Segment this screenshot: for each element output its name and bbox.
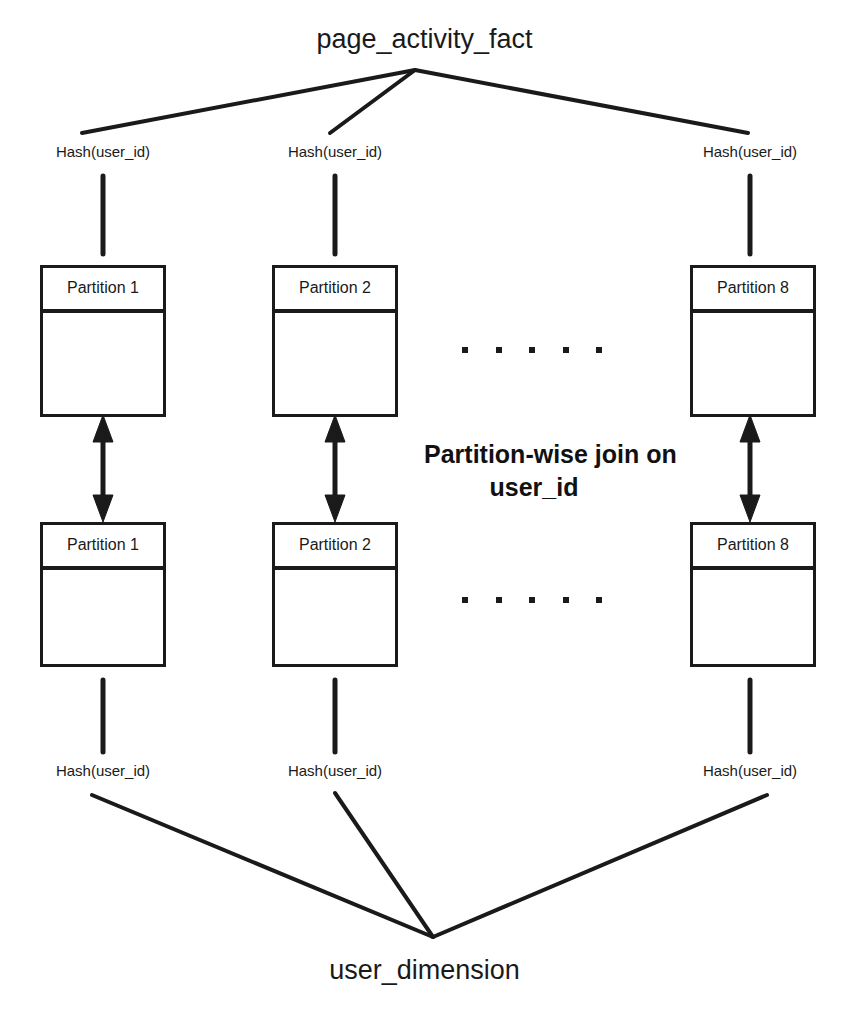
ellipsis-dot bbox=[596, 347, 602, 353]
fact-partition-box-2-body bbox=[275, 313, 395, 459]
ellipsis-dot bbox=[496, 347, 502, 353]
page-title-fact-table: page_activity_fact bbox=[0, 24, 849, 55]
join-annotation: Partition-wise join on user_id bbox=[424, 438, 644, 504]
hash-label-bottom-1: Hash(user_id) bbox=[33, 762, 173, 779]
edge-hash-3-to-dim bbox=[433, 795, 767, 937]
fact-partition-box-1[interactable]: Partition 1 bbox=[40, 265, 166, 417]
dim-partition-box-1-body bbox=[43, 570, 163, 709]
ellipsis-dot bbox=[563, 597, 569, 603]
ellipsis-dot bbox=[462, 347, 468, 353]
fact-partition-box-8[interactable]: Partition 8 bbox=[690, 265, 816, 417]
hash-label-top-3: Hash(user_id) bbox=[680, 143, 820, 160]
ellipsis-fact-partitions bbox=[462, 346, 602, 354]
edge-hash-1-to-dim bbox=[92, 795, 433, 937]
fact-partition-box-8-body bbox=[693, 313, 813, 459]
diagram-canvas: page_activity_fact Hash(user_id) Hash(us… bbox=[0, 0, 849, 1027]
ellipsis-dot bbox=[529, 597, 535, 603]
ellipsis-dot bbox=[596, 597, 602, 603]
dim-partition-box-2[interactable]: Partition 2 bbox=[272, 522, 398, 667]
ellipsis-dot bbox=[462, 597, 468, 603]
hash-label-top-1: Hash(user_id) bbox=[33, 143, 173, 160]
fact-partition-box-2[interactable]: Partition 2 bbox=[272, 265, 398, 417]
dim-partition-box-1[interactable]: Partition 1 bbox=[40, 522, 166, 667]
dim-partition-box-8[interactable]: Partition 8 bbox=[690, 522, 816, 667]
fact-partition-box-1-body bbox=[43, 313, 163, 459]
ellipsis-dot bbox=[529, 347, 535, 353]
fact-partition-box-2-title: Partition 2 bbox=[275, 268, 395, 313]
page-title-dimension-table: user_dimension bbox=[0, 955, 849, 986]
hash-label-top-2: Hash(user_id) bbox=[265, 143, 405, 160]
fact-partition-box-8-title: Partition 8 bbox=[693, 268, 813, 313]
join-annotation-line-1: Partition-wise join on bbox=[424, 438, 644, 471]
dim-partition-box-1-title: Partition 1 bbox=[43, 525, 163, 570]
edge-fact-to-hash-2 bbox=[330, 70, 415, 133]
dim-partition-box-8-title: Partition 8 bbox=[693, 525, 813, 570]
ellipsis-dot bbox=[563, 347, 569, 353]
dim-partition-box-2-body bbox=[275, 570, 395, 709]
edge-fact-to-hash-1 bbox=[82, 70, 415, 133]
fact-partition-box-1-title: Partition 1 bbox=[43, 268, 163, 313]
dim-partition-box-2-title: Partition 2 bbox=[275, 525, 395, 570]
hash-label-bottom-3: Hash(user_id) bbox=[680, 762, 820, 779]
ellipsis-dot bbox=[496, 597, 502, 603]
join-annotation-line-2: user_id bbox=[424, 471, 644, 504]
dim-partition-box-8-body bbox=[693, 570, 813, 709]
edge-fact-to-hash-3 bbox=[415, 70, 748, 133]
hash-label-bottom-2: Hash(user_id) bbox=[265, 762, 405, 779]
edge-hash-2-to-dim bbox=[335, 793, 433, 937]
ellipsis-dim-partitions bbox=[462, 596, 602, 604]
